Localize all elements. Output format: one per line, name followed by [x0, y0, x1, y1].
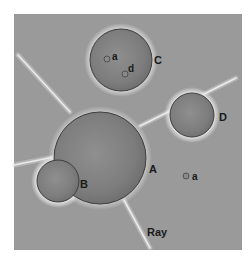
feature-label-a-outside: a	[192, 171, 198, 182]
feature-a-outside	[183, 173, 189, 179]
crater-d	[170, 93, 214, 137]
crater-label-d: D	[219, 111, 227, 123]
feature-label-a-in-C: a	[112, 51, 118, 62]
crater-diagram: ABCDadaRay	[0, 0, 250, 261]
crater-c	[90, 29, 152, 91]
crater-b	[37, 160, 79, 202]
ray-label: Ray	[147, 226, 168, 238]
feature-a-in-C	[104, 56, 110, 62]
crater-label-c: C	[154, 54, 162, 66]
crater-label-a: A	[149, 163, 157, 175]
crater-label-b: B	[80, 178, 88, 190]
feature-label-d-in-C: d	[128, 63, 134, 74]
